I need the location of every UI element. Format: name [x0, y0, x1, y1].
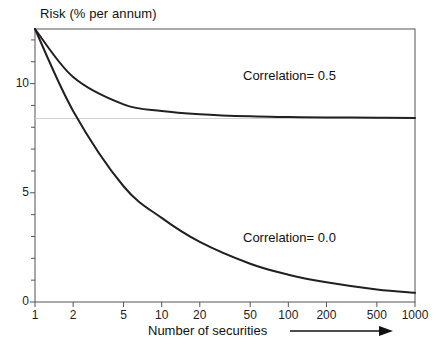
- x-tick-label-2: 2: [53, 308, 93, 322]
- x-axis-arrow-icon: [290, 326, 393, 336]
- x-tick-label-200: 200: [306, 308, 346, 322]
- x-axis-title: Number of securities: [148, 323, 267, 338]
- x-tick-label-10: 10: [142, 308, 182, 322]
- x-tick-label-50: 50: [230, 308, 270, 322]
- y-tick-label-5: 5: [5, 185, 29, 199]
- series-label-correlation-0-0: Correlation= 0.0: [243, 230, 336, 245]
- series-curve-1: [35, 29, 415, 293]
- plot-canvas: [0, 0, 440, 350]
- y-axis-minor-ticks: [31, 40, 35, 280]
- y-tick-label-10: 10: [5, 76, 29, 90]
- series-curves: [35, 29, 415, 293]
- y-tick-label-0: 0: [5, 294, 29, 308]
- x-tick-label-5: 5: [104, 308, 144, 322]
- series-label-correlation-0-5: Correlation= 0.5: [243, 68, 336, 83]
- x-tick-label-1: 1: [15, 308, 55, 322]
- x-tick-label-500: 500: [357, 308, 397, 322]
- y-axis-major-ticks: [30, 84, 35, 302]
- x-axis-ticks: [35, 302, 415, 307]
- x-tick-label-1000: 1000: [395, 308, 435, 322]
- series-curve-0: [35, 29, 415, 118]
- risk-diversification-chart: Risk (% per annum) 0510 1251020501002005…: [0, 0, 440, 350]
- x-tick-label-100: 100: [268, 308, 308, 322]
- plot-frame: [35, 29, 415, 302]
- x-tick-label-20: 20: [180, 308, 220, 322]
